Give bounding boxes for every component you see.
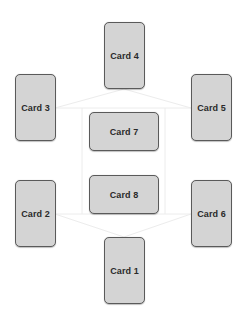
card-3-label: Card 3 [21, 103, 50, 113]
card-1-label: Card 1 [110, 266, 139, 276]
card-5[interactable]: Card 5 [191, 74, 232, 141]
card-4-label: Card 4 [110, 51, 139, 61]
card-3[interactable]: Card 3 [15, 74, 56, 141]
card-6[interactable]: Card 6 [191, 180, 232, 247]
card-1[interactable]: Card 1 [104, 237, 145, 304]
card-2-label: Card 2 [21, 209, 50, 219]
card-6-label: Card 6 [197, 209, 226, 219]
card-8[interactable]: Card 8 [89, 175, 159, 214]
card-8-label: Card 8 [110, 190, 139, 200]
card-5-label: Card 5 [197, 103, 226, 113]
card-7-label: Card 7 [110, 127, 139, 137]
card-spread-diagram: Card 1 Card 2 Card 3 Card 4 Card 5 Card … [0, 0, 243, 319]
card-7[interactable]: Card 7 [89, 112, 159, 151]
card-2[interactable]: Card 2 [15, 180, 56, 247]
card-4[interactable]: Card 4 [104, 22, 145, 89]
